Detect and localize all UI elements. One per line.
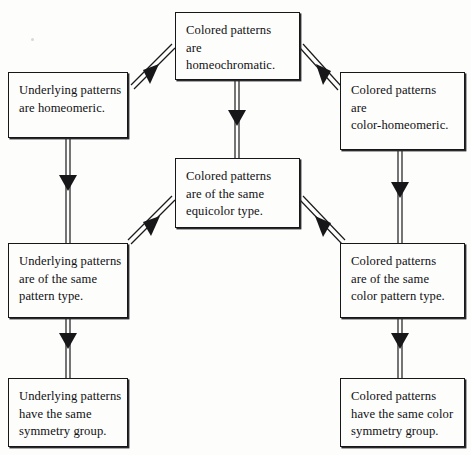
node-colored-homeochromatic[interactable]: Colored patterns are homeochromatic. bbox=[175, 12, 300, 80]
node-label: Colored patterns are homeochromatic. bbox=[186, 22, 299, 75]
node-label: Colored patterns are of the same equicol… bbox=[186, 168, 299, 221]
node-underlying-homeomeric[interactable]: Underlying patterns are homeomeric. bbox=[8, 72, 128, 138]
node-label: Colored patterns are color-homeomeric. bbox=[351, 82, 464, 135]
node-colored-color-pattern-type[interactable]: Colored patterns are of the same color p… bbox=[340, 243, 465, 318]
node-label: Underlying patterns have the same symmet… bbox=[19, 388, 127, 441]
edge-right-upper-to-mid bbox=[391, 150, 409, 243]
node-label: Colored patterns are of the same color p… bbox=[351, 253, 464, 306]
node-label: Underlying patterns are of the same patt… bbox=[19, 253, 127, 306]
node-colored-equicolor-type[interactable]: Colored patterns are of the same equicol… bbox=[175, 158, 300, 228]
edge-left-upper-to-mid bbox=[59, 138, 77, 243]
node-label: Colored patterns have the same color sym… bbox=[351, 388, 464, 441]
edge-top-to-right-upper bbox=[300, 44, 341, 90]
edge-center-to-left-mid bbox=[128, 196, 175, 244]
node-underlying-symmetry-group[interactable]: Underlying patterns have the same symmet… bbox=[8, 378, 128, 447]
node-label: Underlying patterns are homeomeric. bbox=[19, 82, 127, 117]
edge-top-to-center bbox=[228, 80, 246, 158]
edge-left-mid-to-bottom bbox=[59, 318, 77, 378]
node-colored-color-homeomeric[interactable]: Colored patterns are color-homeomeric. bbox=[340, 72, 465, 150]
edge-center-to-right-mid bbox=[300, 196, 345, 244]
diagram-canvas: Colored patterns are homeochromatic. Und… bbox=[0, 0, 471, 455]
node-underlying-pattern-type[interactable]: Underlying patterns are of the same patt… bbox=[8, 243, 128, 318]
edge-right-mid-to-bottom bbox=[391, 318, 409, 378]
edge-top-to-left-upper bbox=[131, 44, 175, 89]
scan-artifact bbox=[31, 38, 34, 41]
node-colored-color-symmetry-group[interactable]: Colored patterns have the same color sym… bbox=[340, 378, 465, 447]
